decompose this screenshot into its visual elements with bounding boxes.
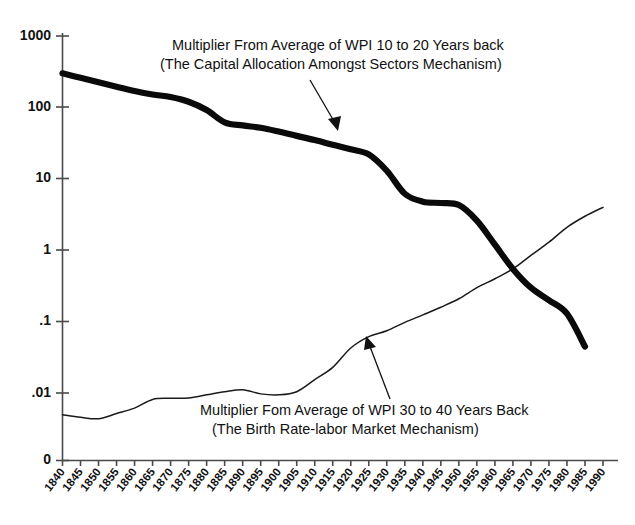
- bottom-annotation-line-2: (The Birth Rate-labor Market Mechanism): [212, 421, 479, 437]
- bottom-annotation-arrowhead: [364, 336, 376, 350]
- y-tick-label: 100: [28, 98, 52, 114]
- x-axis-ticks: 1840184518501855186018651870187518801885…: [42, 461, 608, 494]
- y-axis-ticks: 1000 100 10 1 .1 .01 0: [20, 27, 69, 468]
- bottom-annotation: Multiplier Fom Average of WPI 30 to 40 Y…: [200, 336, 529, 437]
- log-line-chart: 1000 100 10 1 .1 .01 0 18401845185018551…: [0, 0, 635, 525]
- y-tick-label: 1000: [20, 27, 51, 43]
- series-group: [63, 73, 604, 419]
- bottom-annotation-line-1: Multiplier Fom Average of WPI 30 to 40 Y…: [200, 402, 529, 418]
- top-annotation-arrow: [310, 80, 335, 123]
- y-tick-label: .1: [39, 312, 51, 328]
- top-annotation-arrowhead: [328, 116, 341, 131]
- series-line-thin: [63, 207, 604, 419]
- y-tick-label: .01: [32, 384, 52, 400]
- y-tick-label: 1: [43, 241, 51, 257]
- y-tick-label: 0: [43, 451, 51, 467]
- bottom-annotation-arrow: [369, 344, 390, 399]
- axes: [63, 33, 619, 461]
- x-tick-label: 1990: [582, 466, 607, 494]
- series-line-thick: [63, 73, 585, 346]
- y-tick-label: 10: [35, 169, 51, 185]
- top-annotation-line-2: (The Capital Allocation Amongst Sectors …: [160, 56, 502, 72]
- top-annotation-line-1: Multiplier From Average of WPI 10 to 20 …: [172, 37, 505, 53]
- chart-figure: 1000 100 10 1 .1 .01 0 18401845185018551…: [0, 0, 635, 525]
